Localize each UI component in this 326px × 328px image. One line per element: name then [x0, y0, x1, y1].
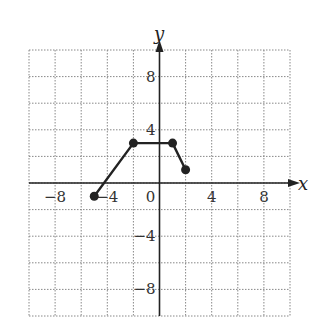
data-point	[90, 192, 99, 201]
data-point	[168, 139, 177, 148]
y-tick-label: −8	[133, 280, 155, 298]
y-tick-label: 4	[146, 121, 156, 139]
x-axis-label: x	[298, 173, 308, 194]
data-point	[129, 139, 138, 148]
data-point	[181, 165, 190, 174]
y-tick-label: 8	[146, 68, 156, 86]
x-tick-label: −8	[44, 188, 66, 206]
x-tick-label: 0	[146, 188, 156, 206]
y-axis-label: y	[153, 23, 165, 44]
chart: −8−404884−4−8 x y	[0, 0, 326, 328]
axes	[29, 40, 300, 316]
x-tick-label: 4	[207, 188, 217, 206]
y-tick-label: −4	[133, 227, 155, 245]
x-tick-label: 8	[259, 188, 269, 206]
